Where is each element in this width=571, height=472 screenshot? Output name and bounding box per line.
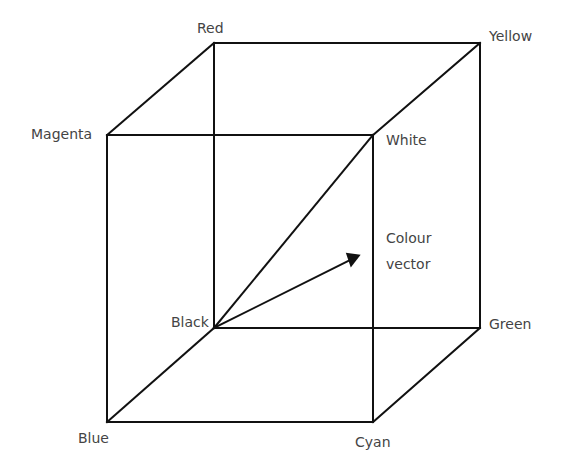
label-colour-vector-line2: vector — [386, 256, 430, 273]
colour-cube-diagram — [0, 0, 571, 472]
edge-green-cyan — [373, 328, 480, 422]
colour-vector-shaft — [214, 260, 350, 328]
label-cyan: Cyan — [355, 434, 391, 451]
diagonal-black-white — [214, 135, 373, 328]
edge-black-blue — [107, 328, 214, 422]
label-yellow: Yellow — [489, 28, 532, 45]
colour-vector-arrowhead-icon — [344, 253, 361, 269]
label-magenta: Magenta — [31, 126, 92, 143]
label-black: Black — [171, 314, 209, 331]
label-white: White — [386, 132, 427, 149]
label-green: Green — [489, 316, 531, 333]
label-red: Red — [197, 20, 224, 37]
label-colour-vector-line1: Colour — [386, 230, 431, 247]
edge-yellow-white — [373, 43, 480, 135]
edge-red-magenta — [107, 43, 214, 135]
label-blue: Blue — [78, 430, 109, 447]
